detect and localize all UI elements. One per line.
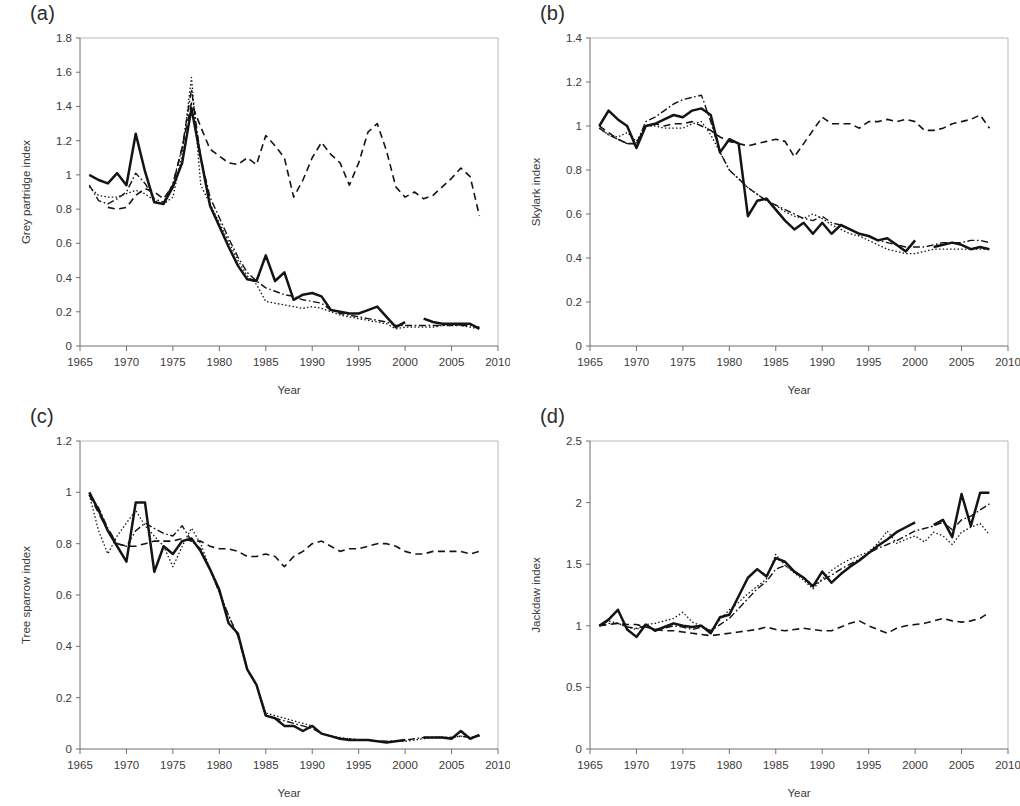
x-tick-label: 1965 [577,759,603,771]
chart-svg-d: 00.511.522.51965197019751980198519901995… [510,403,1020,806]
y-axis-title: Tree sparrow index [20,546,32,644]
y-tick-label: 0 [66,743,72,755]
chart-panel-d: (d) 00.511.522.5196519701975198019851990… [510,403,1020,806]
plot-frame [80,441,498,749]
x-tick-label: 1980 [207,759,233,771]
y-tick-label: 1 [66,169,72,181]
y-tick-label: 0.4 [56,272,73,284]
x-tick-label: 1990 [299,759,325,771]
y-tick-label: 1.5 [566,558,582,570]
x-tick-label: 1995 [856,759,882,771]
y-tick-label: 0.2 [56,306,72,318]
y-tick-label: 0 [576,340,582,352]
x-axis-title: Year [277,384,300,396]
x-tick-label: 1965 [577,356,603,368]
y-tick-label: 0.8 [56,538,72,550]
x-tick-label: 1990 [809,356,835,368]
x-tick-label: 1980 [717,356,743,368]
series-line-dotted [599,524,989,631]
x-tick-label: 1965 [67,759,93,771]
series-line-dashed [108,103,480,216]
chart-svg-a: 00.20.40.60.811.21.41.61.819651970197519… [0,0,510,403]
x-tick-label: 1965 [67,356,93,368]
y-tick-label: 1.2 [56,135,72,147]
plot-frame [590,38,1008,346]
y-tick-label: 0.2 [566,296,582,308]
x-tick-label: 2010 [485,356,510,368]
x-tick-label: 1970 [114,759,140,771]
series-line-dotted [89,77,479,329]
x-tick-label: 1985 [763,356,789,368]
plot-axes [590,441,1008,749]
x-tick-label: 1985 [253,759,279,771]
y-axis-title: Jackdaw index [530,557,542,633]
y-tick-label: 1.6 [56,66,72,78]
x-tick-label: 2010 [995,759,1020,771]
x-tick-label: 1985 [763,759,789,771]
series-line-dotted [599,122,989,254]
x-tick-label: 1975 [160,356,186,368]
plot-axes [80,38,498,346]
y-tick-label: 0 [66,340,72,352]
chart-panel-c: (c) 00.20.40.60.811.21965197019751980198… [0,403,510,806]
y-tick-label: 0.6 [56,237,72,249]
series-line-solid [599,493,989,637]
x-tick-label: 1970 [624,356,650,368]
y-axis-title: Skylark index [530,158,542,227]
chart-panel-a: (a) 00.20.40.60.811.21.41.61.81965197019… [0,0,510,403]
x-tick-label: 1980 [717,759,743,771]
x-tick-label: 1975 [670,759,696,771]
y-tick-label: 0.6 [56,589,72,601]
x-tick-label: 2000 [392,356,418,368]
x-tick-label: 1970 [114,356,140,368]
series-line-dash-dot [599,504,989,631]
x-tick-label: 2005 [949,356,975,368]
x-tick-label: 1985 [253,356,279,368]
x-tick-label: 2000 [902,759,928,771]
chart-panel-b: (b) 00.20.40.60.811.21.41965197019751980… [510,0,1020,403]
x-tick-label: 2005 [949,759,975,771]
x-tick-label: 1970 [624,759,650,771]
chart-svg-c: 00.20.40.60.811.219651970197519801985199… [0,403,510,806]
y-tick-label: 1.2 [566,76,582,88]
x-axis-title: Year [787,384,810,396]
series-line-dash-dot [599,95,989,247]
y-tick-label: 0.8 [56,203,72,215]
y-tick-label: 1 [576,620,582,632]
y-tick-label: 0.6 [566,208,582,220]
x-tick-label: 1990 [299,356,325,368]
x-axis-title: Year [277,787,300,799]
x-tick-label: 2005 [439,356,465,368]
x-tick-label: 2005 [439,759,465,771]
y-tick-label: 1 [66,486,72,498]
y-tick-label: 0.2 [56,692,72,704]
y-tick-label: 1 [576,120,582,132]
y-tick-label: 1.4 [566,32,583,44]
x-tick-label: 1975 [160,759,186,771]
figure-container: (a) 00.20.40.60.811.21.41.61.81965197019… [0,0,1020,806]
plot-axes [80,441,498,749]
plot-axes [590,38,1008,346]
y-tick-label: 0.4 [566,252,583,264]
y-axis-title: Grey partridge index [20,140,32,244]
x-tick-label: 2000 [902,356,928,368]
y-tick-label: 2 [576,497,582,509]
y-tick-label: 1.4 [56,100,73,112]
series-line-solid [89,108,479,329]
y-tick-label: 0 [576,743,582,755]
plot-frame [80,38,498,346]
chart-svg-b: 00.20.40.60.811.21.419651970197519801985… [510,0,1020,403]
x-tick-label: 1990 [809,759,835,771]
x-axis-title: Year [787,787,810,799]
x-tick-label: 1995 [346,356,372,368]
series-line-dash-dot [89,89,479,327]
series-line-solid [89,492,479,742]
x-tick-label: 1980 [207,356,233,368]
x-tick-label: 1995 [346,759,372,771]
series-line-dashed [599,612,989,635]
y-tick-label: 2.5 [566,435,582,447]
y-tick-label: 1.2 [56,435,72,447]
x-tick-label: 2010 [485,759,510,771]
x-tick-label: 2010 [995,356,1020,368]
x-tick-label: 1995 [856,356,882,368]
